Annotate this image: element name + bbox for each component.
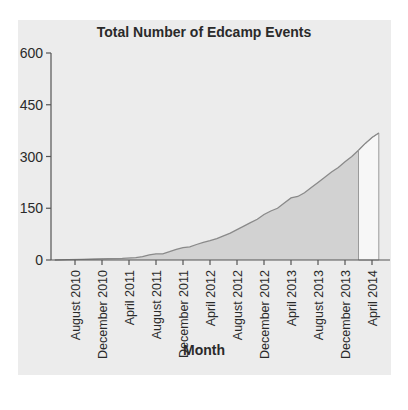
y-tick-label: 0 <box>35 252 43 268</box>
y-tick-label: 600 <box>20 45 44 61</box>
y-tick-label: 150 <box>20 200 44 216</box>
x-axis-title: Month <box>0 342 408 358</box>
x-tick-label: April 2012 <box>204 270 218 326</box>
x-tick-label: April 2013 <box>285 270 299 326</box>
area-fill-light <box>359 133 379 260</box>
y-tick-label: 300 <box>20 149 44 165</box>
x-tick-label: April 2011 <box>123 270 137 325</box>
x-tick-label: August 2013 <box>312 270 326 340</box>
y-axis: 0150300450600 <box>20 45 51 268</box>
x-tick-label: April 2014 <box>366 270 380 326</box>
x-tick-label: August 2010 <box>69 270 83 340</box>
x-tick-label: August 2011 <box>150 270 164 339</box>
y-tick-label: 450 <box>20 97 44 113</box>
area-fill-dark <box>55 150 359 260</box>
x-tick-label: August 2012 <box>231 270 245 340</box>
